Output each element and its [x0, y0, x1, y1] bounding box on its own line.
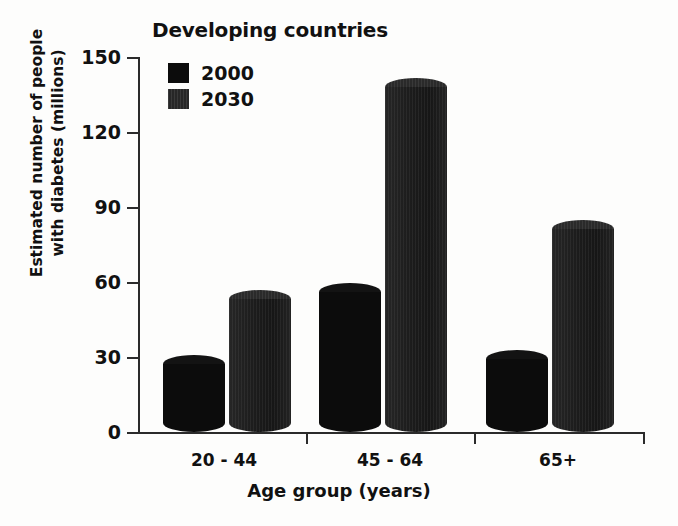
x-axis-line [138, 432, 645, 434]
y-tick-60: 60 [127, 282, 139, 284]
y-tick-150: 150 [127, 57, 139, 59]
plot-area: 150 120 90 60 30 0 [138, 57, 645, 433]
y-tick-label-150: 150 [81, 46, 121, 68]
y-tick-0: 0 [127, 432, 139, 434]
bar-body [319, 292, 381, 432]
bar-body [385, 87, 447, 432]
y-axis-title-line-1: Estimated number of people [27, 0, 48, 323]
x-tick-separator-2 [474, 433, 476, 444]
bar-2000-65-plus [486, 350, 548, 432]
legend-swatch-icon-2000 [168, 63, 189, 83]
x-tick-label-45-64: 45 - 64 [357, 450, 423, 470]
legend-label-2000: 2000 [201, 62, 254, 84]
y-tick-label-60: 60 [95, 271, 121, 293]
legend-label-2030: 2030 [201, 88, 254, 110]
y-tick-120: 120 [127, 132, 139, 134]
y-tick-label-30: 30 [95, 346, 121, 368]
y-axis-title-line-2: with diabetes (millions) [48, 0, 69, 323]
bar-body [552, 229, 614, 432]
legend-swatch-icon-2030 [168, 89, 189, 109]
bar-body [163, 364, 225, 432]
bar-body [486, 359, 548, 432]
bar-body [229, 299, 291, 432]
x-tick-separator-1 [306, 433, 308, 444]
x-axis-title: Age group (years) [0, 480, 678, 501]
legend-item-2000: 2000 [168, 60, 254, 86]
bar-2030-20-44 [229, 290, 291, 432]
x-tick-label-20-44: 20 - 44 [191, 450, 257, 470]
bar-2000-45-64 [319, 283, 381, 432]
y-axis-title: Estimated number of people with diabetes… [27, 0, 73, 323]
diabetes-bar-chart-figure: Developing countries Estimated number of… [0, 0, 678, 526]
legend-item-2030: 2030 [168, 86, 254, 112]
bar-2000-20-44 [163, 355, 225, 432]
y-tick-30: 30 [127, 357, 139, 359]
x-tick-separator-3 [643, 433, 645, 444]
chart-title: Developing countries [152, 18, 452, 42]
bar-2030-45-64 [385, 78, 447, 432]
y-tick-label-120: 120 [81, 121, 121, 143]
chart-legend: 2000 2030 [168, 60, 254, 112]
x-tick-label-65-plus: 65+ [539, 450, 577, 470]
y-tick-label-90: 90 [95, 196, 121, 218]
y-tick-label-0: 0 [108, 421, 121, 443]
bar-2030-65-plus [552, 220, 614, 432]
y-tick-90: 90 [127, 207, 139, 209]
y-axis-line [138, 57, 140, 434]
